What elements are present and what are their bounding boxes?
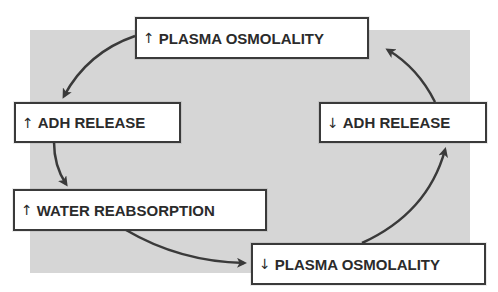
up-arrow-icon: ↑ (22, 115, 34, 131)
arrow-inc-water-to-dec-plasma (126, 230, 244, 263)
down-arrow-icon: ↓ (259, 256, 271, 272)
down-arrow-icon: ↓ (327, 115, 339, 131)
up-arrow-icon: ↑ (143, 30, 155, 46)
node-increase-water-reabsorption: ↑ WATER REABSORPTION (13, 189, 267, 231)
arrow-dec-adh-to-inc-plasma (388, 50, 435, 102)
arrow-dec-plasma-to-dec-adh (362, 150, 445, 243)
node-increase-plasma-osmolality: ↑ PLASMA OSMOLALITY (135, 17, 369, 59)
arrow-inc-adh-to-inc-water (54, 142, 66, 184)
node-label: PLASMA OSMOLALITY (275, 256, 440, 273)
node-label: WATER REABSORPTION (37, 202, 215, 219)
up-arrow-icon: ↑ (21, 202, 33, 218)
node-label: ADH RELEASE (343, 114, 451, 131)
feedback-loop-diagram: ↑ PLASMA OSMOLALITY ↑ ADH RELEASE ↑ WATE… (0, 0, 498, 292)
node-label: ADH RELEASE (38, 114, 146, 131)
node-decrease-plasma-osmolality: ↓ PLASMA OSMOLALITY (251, 243, 486, 285)
node-decrease-adh-release: ↓ ADH RELEASE (319, 102, 487, 143)
node-label: PLASMA OSMOLALITY (159, 30, 324, 47)
arrow-inc-plasma-to-inc-adh (64, 36, 135, 96)
node-increase-adh-release: ↑ ADH RELEASE (14, 102, 181, 143)
